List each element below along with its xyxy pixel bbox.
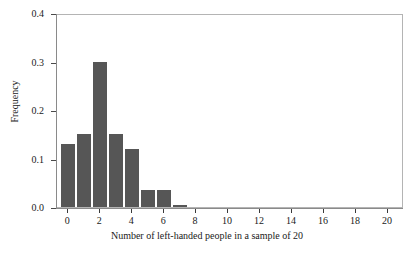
x-tick-mark	[291, 209, 292, 213]
x-tick-mark	[355, 209, 356, 213]
bars-layer	[57, 15, 402, 207]
bar	[60, 144, 76, 207]
x-tick-mark	[227, 209, 228, 213]
bar	[124, 149, 140, 207]
x-tick-label: 2	[84, 215, 114, 226]
x-tick-label: 12	[244, 215, 274, 226]
x-tick-mark	[67, 209, 68, 213]
y-tick-mark	[51, 111, 56, 112]
x-tick-mark	[99, 209, 100, 213]
x-tick-label: 14	[276, 215, 306, 226]
y-tick-label: 0.1	[10, 155, 44, 165]
x-tick-mark	[387, 209, 388, 213]
x-tick-mark	[131, 209, 132, 213]
x-tick-mark	[163, 209, 164, 213]
y-tick-label: 0.0	[10, 203, 44, 213]
bar	[140, 190, 156, 207]
y-tick-mark	[51, 63, 56, 64]
x-tick-mark	[259, 209, 260, 213]
x-tick-label: 8	[180, 215, 210, 226]
x-tick-label: 10	[212, 215, 242, 226]
bar	[108, 134, 124, 207]
x-tick-label: 4	[116, 215, 146, 226]
bar	[76, 134, 92, 207]
x-tick-label: 20	[372, 215, 402, 226]
y-axis-title: Frequency	[9, 67, 20, 137]
x-axis-line	[56, 208, 403, 209]
bar	[172, 205, 188, 207]
histogram-figure: 0.00.10.20.30.4 Frequency 02468101214161…	[0, 0, 414, 254]
y-tick-mark	[51, 160, 56, 161]
x-tick-label: 6	[148, 215, 178, 226]
y-tick-mark	[51, 14, 56, 15]
x-tick-label: 18	[340, 215, 370, 226]
bar	[156, 190, 172, 207]
bar	[92, 62, 108, 208]
x-tick-label: 16	[308, 215, 338, 226]
x-tick-mark	[195, 209, 196, 213]
plot-area	[56, 14, 403, 208]
x-tick-mark	[323, 209, 324, 213]
y-axis-line	[56, 14, 57, 208]
x-tick-label: 0	[52, 215, 82, 226]
y-tick-label: 0.4	[10, 9, 44, 19]
x-axis-title: Number of left-handed people in a sample…	[0, 230, 414, 241]
